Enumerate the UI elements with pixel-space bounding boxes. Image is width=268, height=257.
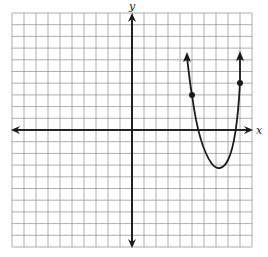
y-axis-label: y [128, 0, 136, 13]
coordinate-plane: x y [0, 0, 268, 257]
point-marker [189, 92, 195, 98]
curve [187, 57, 240, 168]
point-marker [237, 80, 243, 86]
x-axis-label: x [256, 124, 263, 137]
